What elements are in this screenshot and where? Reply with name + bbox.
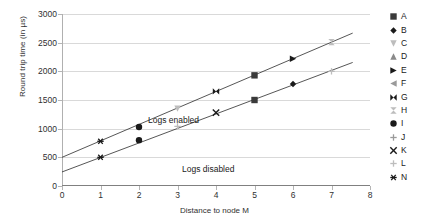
legend-label: D xyxy=(401,52,407,61)
legend-marker-diamond-icon xyxy=(388,25,399,36)
legend-item-J[interactable]: J xyxy=(388,131,426,144)
legend-label: N xyxy=(401,173,407,182)
legend-label: H xyxy=(401,106,407,115)
y-axis-tick-label: 1000 xyxy=(23,125,57,133)
legend-marker-bowtie-icon xyxy=(388,92,399,103)
legend-label: C xyxy=(401,39,407,48)
data-point-A xyxy=(251,97,257,103)
legend-marker-asterisk-icon xyxy=(388,172,399,183)
y-axis-tick-label: 2000 xyxy=(23,67,57,75)
y-axis-tick-label: 500 xyxy=(23,153,57,161)
legend-marker-circle-icon xyxy=(388,118,399,129)
legend-marker-triangle-right-icon xyxy=(388,65,399,76)
legend-label: L xyxy=(401,159,406,168)
legend-item-N[interactable]: N xyxy=(388,171,426,184)
x-axis-tick-label: 3 xyxy=(168,190,188,200)
data-point-A xyxy=(251,72,257,78)
plot-area: Logs enabled Logs disabled xyxy=(62,14,370,186)
series-layer xyxy=(62,14,370,186)
data-point-N xyxy=(97,139,103,144)
legend-label: A xyxy=(401,12,407,21)
legend-item-E[interactable]: E xyxy=(388,64,426,77)
x-axis-tick-label: 6 xyxy=(283,190,303,200)
legend-item-D[interactable]: D xyxy=(388,50,426,63)
legend-item-F[interactable]: F xyxy=(388,77,426,90)
x-axis-tick-label: 0 xyxy=(52,190,72,200)
legend-item-C[interactable]: C xyxy=(388,37,426,50)
x-axis-tick-label: 8 xyxy=(360,190,380,200)
data-point-J xyxy=(328,68,334,74)
legend-marker-triangle-up-icon xyxy=(388,51,399,62)
legend-marker-square-icon xyxy=(388,11,399,22)
data-point-H xyxy=(328,39,334,45)
legend-item-H[interactable]: H xyxy=(388,104,426,117)
data-point-E xyxy=(290,56,296,62)
y-axis-tick-label: 2500 xyxy=(23,39,57,47)
legend-label: E xyxy=(401,66,407,75)
legend-marker-plus-icon xyxy=(388,132,399,143)
legend-item-G[interactable]: G xyxy=(388,90,426,103)
y-axis-tick-label: 3000 xyxy=(23,10,57,18)
data-point-I xyxy=(136,137,142,143)
legend-item-A[interactable]: A xyxy=(388,10,426,23)
x-axis-tick-label: 1 xyxy=(91,190,111,200)
x-axis-tick-label: 2 xyxy=(129,190,149,200)
annotation-logs-enabled: Logs enabled xyxy=(148,115,199,125)
legend: ABCDEFGHIJKLN xyxy=(388,10,426,184)
legend-marker-bowtie-vertical-icon xyxy=(388,105,399,116)
legend-marker-plus-icon xyxy=(388,158,399,169)
legend-label: I xyxy=(401,119,403,128)
annotation-logs-disabled: Logs disabled xyxy=(182,164,234,174)
legend-label: J xyxy=(401,133,405,142)
legend-label: B xyxy=(401,26,407,35)
legend-marker-triangle-down-icon xyxy=(388,38,399,49)
legend-label: K xyxy=(401,146,407,155)
data-point-N xyxy=(97,155,103,160)
legend-marker-cross-icon xyxy=(388,145,399,156)
legend-label: F xyxy=(401,79,406,88)
legend-item-K[interactable]: K xyxy=(388,144,426,157)
y-axis-title: Round trip time (in µs) xyxy=(18,0,27,127)
x-axis-tick-label: 5 xyxy=(245,190,265,200)
x-axis-title: Distance to node M xyxy=(0,206,429,215)
data-point-K xyxy=(213,109,219,115)
chart-root: Round trip time (in µs) 0500100015002000… xyxy=(0,0,429,224)
legend-item-I[interactable]: I xyxy=(388,117,426,130)
x-axis-tick-label: 7 xyxy=(322,190,342,200)
legend-label: G xyxy=(401,93,408,102)
legend-item-L[interactable]: L xyxy=(388,157,426,170)
trendline-logs-disabled xyxy=(62,62,353,172)
trendline-logs-enabled xyxy=(62,33,353,157)
x-axis-tick-label: 4 xyxy=(206,190,226,200)
y-axis-tick-label: 1500 xyxy=(23,96,57,104)
legend-item-B[interactable]: B xyxy=(388,23,426,36)
legend-marker-triangle-left-icon xyxy=(388,78,399,89)
y-axis-tick-label: 0 xyxy=(23,182,57,190)
data-point-I xyxy=(136,124,142,130)
